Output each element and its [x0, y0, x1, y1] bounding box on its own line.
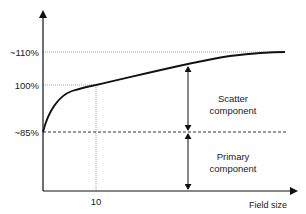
y-tick-100: 100%	[15, 80, 40, 91]
diagram-canvas: ~110% 100% ~85% 10 Field size Scatter co…	[0, 0, 306, 214]
output-factor-diagram: ~110% 100% ~85% 10 Field size Scatter co…	[0, 0, 306, 214]
primary-label-line1: Primary	[217, 151, 250, 162]
y-tick-85: ~85%	[14, 127, 39, 138]
x-tick-10: 10	[91, 196, 102, 207]
scatter-label-line2: component	[209, 105, 256, 116]
y-tick-110: ~110%	[10, 47, 40, 58]
primary-label-line2: component	[209, 163, 256, 174]
scatter-label-line1: Scatter	[218, 93, 248, 104]
x-axis-label: Field size	[249, 200, 287, 210]
output-factor-curve	[43, 52, 285, 132]
